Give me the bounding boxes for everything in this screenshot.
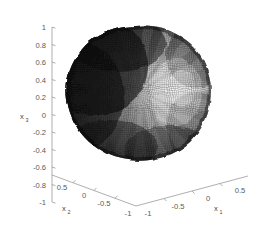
x3-tick-labels: 1 0.8 0.6 0.4 0.2 0 -0.2 -0.4 -0.6 -0.8 … <box>33 23 46 207</box>
figure-canvas: 1 0.8 0.6 0.4 0.2 0 -0.2 -0.4 -0.6 -0.8 … <box>0 0 280 246</box>
x3-tick-label: 1 <box>42 23 46 32</box>
x1-tick-marks <box>164 184 223 202</box>
x2-tick-label: -0.5 <box>97 199 110 208</box>
axis-label-x2-sub: 2 <box>67 209 70 215</box>
axis-label-x1: x 1 <box>214 204 222 215</box>
x3-tick-marks <box>52 27 56 203</box>
x1-tick-label: -1 <box>145 209 152 218</box>
axis-label-x2-text: x <box>62 204 66 213</box>
sphere-wireframe-mesh <box>55 18 225 173</box>
x3-tick-label: 0.4 <box>35 76 46 85</box>
x1-tick-label: -0.5 <box>171 202 184 211</box>
x3-tick-label: 0.6 <box>35 58 46 67</box>
x2-tick-label: 0 <box>82 191 86 200</box>
x3-tick-label: -1 <box>39 198 46 207</box>
x1-tick-labels: -1 -0.5 0 0.5 <box>145 186 246 218</box>
rippled-sphere-surface <box>44 15 226 174</box>
x3-tick-label: -0.6 <box>33 163 46 172</box>
x3-tick-label: 0.2 <box>35 93 46 102</box>
x1-tick-label: 0.5 <box>235 186 246 195</box>
x3-tick-label: -0.2 <box>33 128 46 137</box>
axis-label-x3-sub: 3 <box>25 117 28 123</box>
x2-tick-label: 0.5 <box>57 183 68 192</box>
x1-tick-label: 0 <box>206 194 210 203</box>
axis-label-x2: x 2 <box>62 204 70 215</box>
surface-plot: 1 0.8 0.6 0.4 0.2 0 -0.2 -0.4 -0.6 -0.8 … <box>0 0 280 246</box>
x2-tick-label: -1 <box>125 209 132 218</box>
axis-label-x3-text: x <box>20 112 24 121</box>
axis-label-x1-text: x <box>214 204 218 213</box>
x3-tick-label: -0.8 <box>33 181 46 190</box>
x3-tick-label: 0.8 <box>35 41 46 50</box>
axis-label-x1-sub: 1 <box>219 209 222 215</box>
x2-tick-marks <box>73 180 118 198</box>
x3-tick-label: 0 <box>42 111 46 120</box>
axis-label-x3: x 3 <box>20 112 28 123</box>
x3-tick-label: -0.4 <box>33 146 46 155</box>
